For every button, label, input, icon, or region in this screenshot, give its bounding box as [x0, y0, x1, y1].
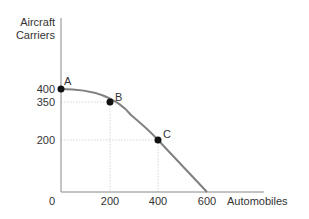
guide-lines — [61, 102, 158, 192]
y-tick-350: 350 — [37, 96, 55, 108]
ppf-chart: A B C Aircraft Carriers 400 350 200 0 20… — [0, 0, 309, 219]
point-b-label: B — [115, 91, 122, 103]
point-c-label: C — [163, 128, 171, 140]
y-tick-400: 400 — [37, 83, 55, 95]
y-tick-200: 200 — [37, 134, 55, 146]
x-tick-200: 200 — [101, 195, 119, 207]
point-c — [155, 137, 162, 144]
x-tick-0: 0 — [49, 195, 55, 207]
ppf-curve — [61, 89, 207, 192]
y-axis-label-line1: Aircraft — [20, 16, 55, 28]
x-tick-400: 400 — [149, 195, 167, 207]
x-axis-label: Automobiles — [227, 195, 288, 207]
point-b — [107, 99, 114, 106]
point-a-label: A — [64, 75, 72, 87]
x-tick-600: 600 — [198, 195, 216, 207]
y-axis-label-line2: Carriers — [16, 29, 56, 41]
